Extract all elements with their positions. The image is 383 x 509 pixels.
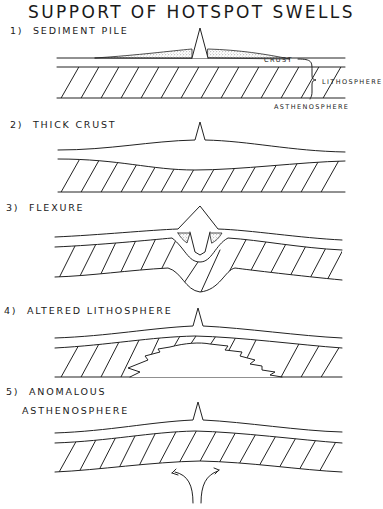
panel-3-hatching xyxy=(58,234,345,294)
panel-1-hatching xyxy=(60,65,342,100)
upwelling-arrows-icon xyxy=(172,468,219,503)
panel-1-diagram xyxy=(57,28,345,100)
panel-5-diagram xyxy=(55,402,342,503)
panel-3-diagram xyxy=(55,206,345,294)
panel-2-diagram xyxy=(58,122,345,194)
cross-section-drawings xyxy=(0,0,383,509)
panel-4-diagram xyxy=(55,308,342,379)
lithosphere-brace xyxy=(298,59,316,99)
panel-5-hatching xyxy=(58,428,338,474)
low-density-region xyxy=(128,343,282,377)
